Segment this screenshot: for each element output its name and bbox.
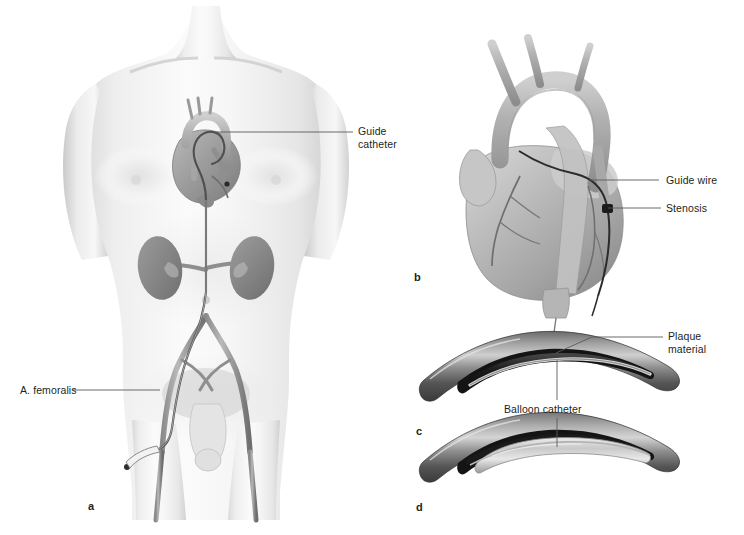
stenosis-marker-a	[224, 181, 229, 186]
medical-illustration	[0, 0, 744, 535]
panel-letter-b: b	[414, 271, 421, 283]
stenosis-band-b	[602, 204, 613, 213]
scrotum	[195, 449, 221, 471]
panel-letter-d: d	[416, 501, 423, 513]
label-balloon-catheter: Balloon catheter	[504, 403, 581, 416]
label-a-femoralis: A. femoralis	[20, 384, 77, 397]
panel-letter-a: a	[88, 500, 94, 512]
label-guide-catheter: Guide catheter	[358, 125, 397, 151]
label-stenosis: Stenosis	[666, 202, 707, 215]
panel-letter-c: c	[416, 425, 422, 437]
label-plaque-material: Plaque material	[668, 330, 706, 356]
apex-vessel-b	[543, 288, 570, 318]
nipple-left	[131, 175, 141, 185]
nipple-right	[271, 175, 281, 185]
label-guide-wire: Guide wire	[666, 174, 717, 187]
